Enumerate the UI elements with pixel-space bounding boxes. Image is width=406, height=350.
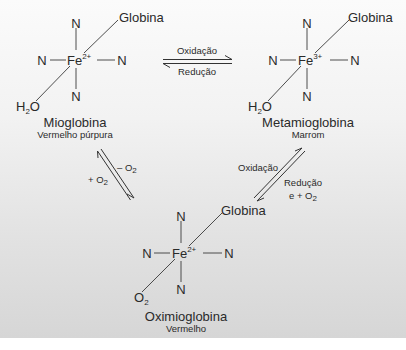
ligand-n-top: N	[71, 16, 80, 31]
ligand-n-right: N	[117, 53, 126, 68]
oximioglobina-complex: N N N N Fe2+ Globina O2 Oximioglobina Ve…	[134, 203, 267, 334]
iron-atom: Fe3+	[298, 52, 323, 68]
metamioglobina-color: Marrom	[292, 129, 325, 140]
ligand-n-left: N	[37, 53, 46, 68]
oxidation-label: Oxidação	[238, 162, 278, 173]
equilibrium-arrow-oxi-meta: Oxidação Redução e + O2	[238, 148, 322, 203]
equilibrium-arrow-mio-oxi: – O2 + O2	[88, 149, 137, 200]
ligand-n-bottom: N	[176, 282, 185, 297]
oxygen-ligand: O2	[134, 290, 149, 307]
globina-label: Globina	[348, 10, 394, 25]
water-ligand: H2O	[248, 99, 272, 116]
iron-atom: Fe2+	[172, 245, 197, 261]
oxygenation-label: + O2	[88, 174, 109, 187]
ligand-n-top: N	[302, 16, 311, 31]
mioglobina-name: Mioglobina	[44, 115, 108, 130]
iron-atom: Fe2+	[67, 52, 92, 68]
diagram-canvas: N N N N Fe2+ Globina H2O Mioglobina Verm…	[0, 0, 406, 338]
deoxygenation-label: – O2	[117, 162, 137, 175]
oximioglobina-name: Oximioglobina	[145, 309, 228, 324]
ligand-n-left: N	[142, 246, 151, 261]
ligand-n-left: N	[268, 53, 277, 68]
electron-oxygen-label: e + O2	[289, 190, 318, 203]
mioglobina-color: Vermelho púrpura	[37, 129, 113, 140]
metamioglobina-complex: N N N N Fe3+ Globina H2O Metamioglobina …	[248, 10, 394, 140]
globina-label: Globina	[119, 10, 165, 25]
reduction-label: Redução	[178, 66, 216, 77]
ligand-n-bottom: N	[302, 89, 311, 104]
ligand-n-top: N	[176, 209, 185, 224]
equilibrium-arrow-mio-meta: Oxidação Redução	[163, 45, 232, 77]
ligand-n-bottom: N	[71, 89, 80, 104]
myoglobin-states-diagram: N N N N Fe2+ Globina H2O Mioglobina Verm…	[0, 0, 406, 338]
oximioglobina-color: Vermelho	[166, 323, 206, 334]
ligand-n-right: N	[350, 53, 359, 68]
reduction-label: Redução	[284, 177, 322, 188]
mioglobina-complex: N N N N Fe2+ Globina H2O Mioglobina Verm…	[16, 10, 165, 140]
metamioglobina-name: Metamioglobina	[262, 115, 355, 130]
water-ligand: H2O	[16, 99, 40, 116]
oxidation-label: Oxidação	[177, 45, 217, 56]
globina-label: Globina	[221, 203, 267, 218]
ligand-n-right: N	[224, 246, 233, 261]
